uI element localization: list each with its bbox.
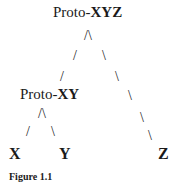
node-proto-xyz-prefix: Proto- xyxy=(53,4,91,20)
leaf-z: Z xyxy=(158,146,169,162)
node-proto-xyz: Proto-XYZ xyxy=(53,5,122,20)
edge-root-right-2: \ xyxy=(115,70,119,84)
node-proto-xyz-suffix: XYZ xyxy=(91,4,123,20)
edge-root-right-4: \ xyxy=(140,111,144,125)
edge-root-fork: /\ xyxy=(84,29,92,43)
edge-mid-right: \ xyxy=(51,125,55,139)
edge-mid-left: / xyxy=(26,125,30,139)
node-proto-xy: Proto-XY xyxy=(20,87,79,102)
edge-root-left-2: / xyxy=(60,70,64,84)
edge-root-left-1: / xyxy=(73,49,77,63)
figure-caption: Figure 1.1 xyxy=(9,172,52,182)
edge-root-right-5: \ xyxy=(148,129,152,143)
edge-root-right-1: \ xyxy=(102,49,106,63)
node-proto-xy-prefix: Proto- xyxy=(20,86,58,102)
edge-mid-fork: /\ xyxy=(38,107,46,121)
edge-root-right-3: \ xyxy=(128,89,132,103)
leaf-y: Y xyxy=(59,146,71,162)
node-proto-xy-suffix: XY xyxy=(58,86,80,102)
leaf-x: X xyxy=(9,146,21,162)
